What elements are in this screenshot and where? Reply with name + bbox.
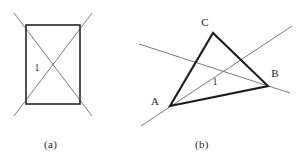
figure-a-group: 1 (14, 13, 92, 116)
figure-b-caption: (b) (195, 138, 209, 150)
figure-a-caption: (a) (44, 138, 57, 150)
figure-a-angle-label: 1 (35, 62, 40, 73)
figure-b-group: A B C 1 (139, 16, 292, 126)
figure-page: 1 A B C 1 (a) (b) (0, 0, 304, 168)
figure-b-vertex-label-a: A (151, 95, 159, 107)
figure-b-vertex-label-c: C (201, 16, 208, 28)
figure-b-vertex-label-b: B (271, 67, 278, 79)
figure-b-angle-label: 1 (213, 76, 218, 87)
